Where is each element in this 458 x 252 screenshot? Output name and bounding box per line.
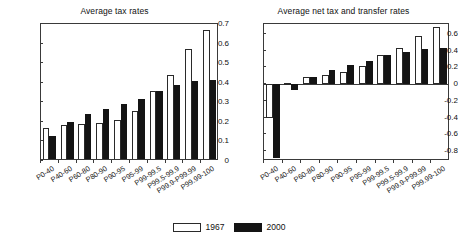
legend-swatch-2000 [234,223,262,232]
chart-panel-average-tax-rates: Average tax rates 00.10.20.30.40.50.60.7… [0,0,229,215]
y-axis-tick-label: 0.5 [194,58,229,67]
y-axis-tick-label: 0.4 [194,77,229,86]
bar-2000-P99.9-P99.99 [422,49,429,84]
y-axis-tick-mark [263,50,266,51]
bar-1967-P95-99 [359,66,366,84]
legend-item-1967: 1967 [173,222,225,232]
x-axis-tick-mark [412,160,413,163]
x-axis-tick-mark [282,160,283,163]
y-axis-tick-mark [263,117,266,118]
chart-title-left: Average tax rates [0,6,229,16]
chart-panels: Average tax rates 00.10.20.30.40.50.60.7… [0,0,458,215]
y-axis-tick-mark [40,82,43,83]
y-axis-tick-mark [40,140,43,141]
y-axis-tick-mark [40,62,43,63]
y-axis-tick-label: 0 [429,79,458,88]
bar-1967-P99.9-P99.99 [415,36,422,84]
bar-2000-P95-99 [138,99,145,159]
y-axis-tick-mark [40,101,43,102]
bar-2000-P90-95 [121,104,128,159]
y-axis-tick-label: 0.2 [194,116,229,125]
y-axis-tick-label: -0.6 [429,129,458,138]
y-axis-tick-label: 0.6 [429,29,458,38]
x-axis-tick-mark [111,160,112,163]
y-axis-tick-mark [263,100,266,101]
x-axis-tick-mark [337,160,338,163]
bar-2000-P40-60 [291,84,298,90]
y-axis-tick-label: 0.7 [194,19,229,28]
bar-1967-P80-90 [322,75,329,85]
bar-2000-P60-80 [85,114,92,159]
y-axis-tick-mark [263,150,266,151]
bar-2000-P99-99.5 [384,55,391,84]
plot-area-right [263,23,449,160]
chart-title-right: Average net tax and transfer rates [229,6,458,16]
y-axis-tick-mark [263,33,266,34]
y-axis-tick-label: -0.2 [429,95,458,104]
x-axis-tick-mark [165,160,166,163]
x-axis-tick-mark [263,160,264,163]
bar-2000-P99-99.5 [156,91,163,159]
plot-inner-left [41,24,217,159]
y-axis-tick-mark [40,23,43,24]
x-axis-tick-mark [129,160,130,163]
x-axis-tick-mark [147,160,148,163]
y-axis-tick-label: -0.8 [429,145,458,154]
bar-2000-P80-90 [103,109,110,159]
y-axis-tick-label: 0.4 [429,45,458,54]
plot-area-left [40,23,218,160]
bar-1967-P99.5-99.9 [396,48,403,84]
bar-2000-P60-80 [310,77,317,84]
bar-2000-P99.5-99.9 [174,85,181,159]
bar-1967-P99-99.5 [377,55,384,84]
x-axis-tick-mark [356,160,357,163]
y-axis-tick-label: 0.1 [194,136,229,145]
legend-label-1967: 1967 [206,222,225,232]
x-axis-tick-mark [93,160,94,163]
bar-1967-P0-40 [266,84,273,117]
legend-label-2000: 2000 [267,222,286,232]
legend-swatch-1967 [173,223,201,232]
x-axis-tick-mark [300,160,301,163]
bar-2000-P95-99 [366,61,373,84]
plot-inner-right [264,24,448,159]
x-axis-tick-mark [58,160,59,163]
bar-2000-P80-90 [329,70,336,84]
y-axis-tick-mark [263,83,266,84]
bar-2000-P40-60 [67,122,74,159]
legend-item-2000: 2000 [234,222,286,232]
chart-panel-net-tax-transfer-rates: Average net tax and transfer rates -0.8-… [229,0,458,215]
bar-1967-P95-99 [132,111,139,159]
y-axis-tick-mark [263,66,266,67]
y-axis-tick-label: 0.6 [194,38,229,47]
bar-2000-P99.5-99.9 [403,52,410,85]
x-axis-tick-mark [182,160,183,163]
x-axis-tick-mark [76,160,77,163]
figure-container: Average tax rates 00.10.20.30.40.50.60.7… [0,0,458,252]
y-axis-tick-label: 0.2 [429,62,458,71]
x-axis-tick-mark [430,160,431,163]
bar-1967-P0-40 [43,128,50,159]
chart-legend: 1967 2000 [0,222,458,232]
bar-2000-P0-40 [273,84,280,158]
x-axis-tick-mark [40,160,41,163]
x-axis-tick-mark [375,160,376,163]
bar-2000-P90-95 [347,65,354,84]
y-axis-tick-mark [40,43,43,44]
y-axis-tick-label: 0.3 [194,97,229,106]
bar-1967-P90-95 [340,72,347,85]
bar-2000-P0-40 [49,136,56,159]
y-axis-tick-label: -0.4 [429,112,458,121]
x-axis-tick-mark [319,160,320,163]
y-axis-tick-mark [263,133,266,134]
bar-1967-P60-80 [303,77,310,84]
bar-1967-P40-60 [284,83,291,85]
x-axis-tick-mark [200,160,201,163]
x-axis-tick-mark [393,160,394,163]
y-axis-tick-mark [40,121,43,122]
